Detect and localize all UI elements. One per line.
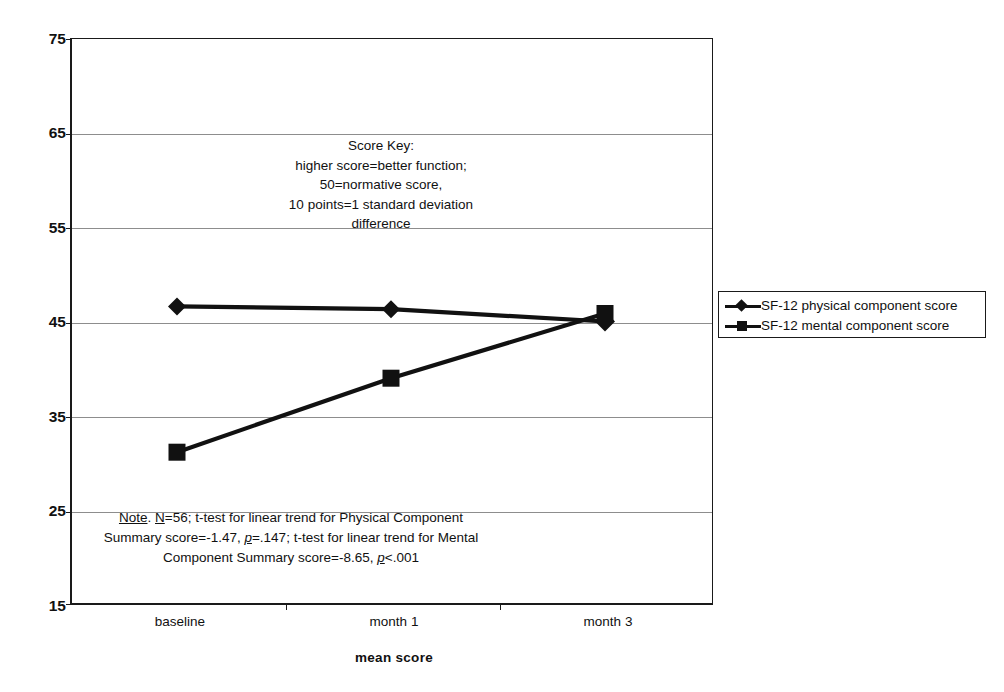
gridline-35 bbox=[72, 417, 712, 418]
y-tick-45 bbox=[66, 323, 72, 324]
legend-label-mental: SF-12 mental component score bbox=[761, 318, 949, 334]
note-p-symbol-1: p bbox=[244, 530, 252, 545]
score-key-annotation: Score Key: higher score=better function;… bbox=[236, 136, 526, 234]
note-p-symbol-2: p bbox=[377, 550, 385, 565]
chart-legend: SF-12 physical component score SF-12 men… bbox=[718, 291, 986, 338]
score-key-line-1: higher score=better function; bbox=[236, 156, 526, 176]
note-line-2b: =.147; t-test for linear trend for Menta… bbox=[252, 530, 478, 545]
x-tick-label-month3: month 3 bbox=[548, 614, 668, 629]
y-tick-35 bbox=[66, 417, 72, 418]
legend-label-physical: SF-12 physical component score bbox=[761, 298, 958, 314]
x-tick-label-month1: month 1 bbox=[334, 614, 454, 629]
note-line-3b: <.001 bbox=[385, 550, 419, 565]
x-axis-title: mean score bbox=[334, 650, 454, 665]
score-key-line-4: difference bbox=[236, 214, 526, 234]
y-tick-label-45: 45 bbox=[26, 313, 66, 331]
note-line-1: Note. N=56; t-test for linear trend for … bbox=[86, 508, 496, 528]
y-tick-label-75: 75 bbox=[26, 30, 66, 48]
note-period: . bbox=[147, 510, 151, 525]
note-line-3: Component Summary score=-8.65, p<.001 bbox=[86, 548, 496, 568]
score-key-line-0: Score Key: bbox=[236, 136, 526, 156]
x-tick-label-baseline: baseline bbox=[120, 614, 240, 629]
y-tick-label-25: 25 bbox=[26, 502, 66, 520]
gridline-65 bbox=[72, 134, 712, 135]
y-tick-label-55: 55 bbox=[26, 219, 66, 237]
x-tick-1 bbox=[286, 603, 287, 610]
note-line-2a: Summary score=-1.47, bbox=[104, 530, 245, 545]
y-tick-25 bbox=[66, 512, 72, 513]
note-annotation: Note. N=56; t-test for linear trend for … bbox=[86, 508, 496, 568]
y-tick-55 bbox=[66, 228, 72, 229]
note-label: Note bbox=[119, 510, 148, 525]
score-key-line-3: 10 points=1 standard deviation bbox=[236, 195, 526, 215]
gridline-45 bbox=[72, 323, 712, 324]
y-tick-65 bbox=[66, 134, 72, 135]
y-tick-15 bbox=[66, 604, 72, 605]
score-key-line-2: 50=normative score, bbox=[236, 175, 526, 195]
square-marker-icon bbox=[725, 318, 761, 334]
legend-item-physical: SF-12 physical component score bbox=[725, 296, 979, 316]
note-line-1-rest: =56; t-test for linear trend for Physica… bbox=[165, 510, 463, 525]
y-tick-label-35: 35 bbox=[26, 408, 66, 426]
x-tick-2 bbox=[500, 603, 501, 610]
note-line-3a: Component Summary score=-8.65, bbox=[163, 550, 377, 565]
chart-page: 75 65 55 45 35 25 15 bas bbox=[0, 0, 1004, 692]
legend-item-mental: SF-12 mental component score bbox=[725, 316, 979, 336]
y-tick-75 bbox=[66, 39, 72, 40]
y-tick-label-15: 15 bbox=[26, 597, 66, 615]
note-n-symbol: N bbox=[155, 510, 165, 525]
diamond-marker-icon bbox=[725, 298, 761, 314]
note-line-2: Summary score=-1.47, p=.147; t-test for … bbox=[86, 528, 496, 548]
y-tick-label-65: 65 bbox=[26, 124, 66, 142]
